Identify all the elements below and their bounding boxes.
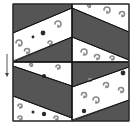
quilt-block-diagram — [0, 0, 136, 129]
print-dot-17 — [42, 112, 46, 116]
print-dot-25 — [82, 109, 86, 113]
print-dot-16 — [32, 111, 35, 114]
arrow-down-icon — [5, 54, 9, 77]
print-dot-1 — [32, 36, 35, 39]
print-dot-20 — [121, 71, 126, 76]
print-dot-0 — [41, 31, 46, 36]
